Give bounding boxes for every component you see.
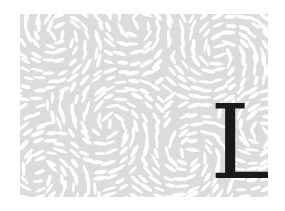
drop-cap-letter: L: [210, 92, 268, 194]
decorative-pattern-panel: L: [20, 14, 268, 197]
